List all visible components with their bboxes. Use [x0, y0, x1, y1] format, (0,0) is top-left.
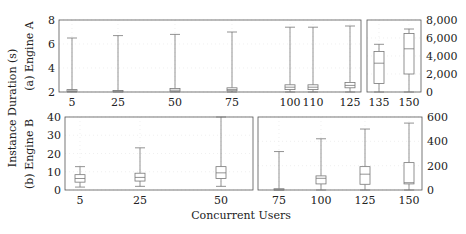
box-50 [170, 34, 180, 92]
y-tick-label: 4 [48, 62, 55, 75]
x-tick-label: 150 [399, 194, 420, 207]
x-tick-label: 5 [69, 96, 76, 109]
row-label-engine-a: (a) Engine A [23, 20, 36, 90]
y-tick-label: 30 [47, 129, 61, 142]
box-125 [360, 129, 370, 190]
x-tick-label: 50 [214, 194, 228, 207]
x-tick-label: 5 [77, 194, 84, 207]
y-tick-label: 8 [48, 14, 55, 27]
panel-engine_a_left: 24685255075100110125 [48, 14, 361, 109]
x-tick-label: 110 [303, 96, 324, 109]
box-5 [67, 38, 77, 92]
y-tick-label: 8,000 [426, 14, 458, 27]
x-tick-label: 150 [399, 96, 420, 109]
box-150 [404, 123, 414, 190]
x-tick-label: 75 [225, 96, 239, 109]
panel-engine_b_left: 01020304052550 [47, 111, 253, 207]
box-5 [75, 167, 85, 187]
x-tick-label: 75 [272, 194, 286, 207]
y-tick-label: 40 [47, 111, 61, 124]
x-tick-label: 125 [340, 96, 361, 109]
y-tick-label: 20 [47, 148, 61, 161]
row-label-engine-b: (b) Engine B [23, 119, 36, 189]
y-tick-label: 400 [427, 135, 448, 148]
x-tick-label: 50 [168, 96, 182, 109]
boxplot-figure: 2468525507510011012502,0004,0006,0008,00… [0, 0, 466, 234]
x-axis-title: Concurrent Users [191, 209, 291, 222]
panel-engine_b_right: 020040060075100125150 [258, 111, 448, 207]
y-axis-title: Instance Duration (s) [6, 49, 19, 167]
y-tick-label: 6 [48, 38, 55, 51]
box-125 [345, 26, 355, 92]
y-tick-label: 2 [48, 86, 55, 99]
box-135 [374, 44, 384, 92]
x-tick-label: 135 [369, 96, 390, 109]
panels: 2468525507510011012502,0004,0006,0008,00… [47, 14, 458, 207]
x-tick-label: 100 [311, 194, 332, 207]
box-110 [308, 27, 318, 92]
y-tick-label: 600 [427, 111, 448, 124]
box-25 [135, 148, 145, 187]
plot-frame [59, 20, 361, 92]
box-25 [113, 36, 123, 92]
x-tick-label: 125 [355, 194, 376, 207]
box-100 [316, 139, 326, 190]
box-75 [227, 32, 237, 92]
box-150 [404, 29, 414, 92]
box-50 [216, 117, 226, 186]
y-tick-label: 0 [427, 184, 434, 197]
box-100 [285, 27, 295, 92]
y-tick-label: 0 [54, 184, 61, 197]
y-tick-label: 2,000 [426, 68, 458, 81]
x-tick-label: 25 [133, 194, 147, 207]
y-tick-label: 4,000 [426, 50, 458, 63]
x-tick-label: 100 [280, 96, 301, 109]
panel-engine_a_right: 02,0004,0006,0008,000135150 [367, 14, 458, 109]
box-75 [274, 152, 284, 190]
y-tick-label: 10 [47, 166, 61, 179]
y-tick-label: 0 [426, 86, 433, 99]
y-tick-label: 200 [427, 160, 448, 173]
y-tick-label: 6,000 [426, 32, 458, 45]
plot-frame [258, 117, 422, 190]
x-tick-label: 25 [111, 96, 125, 109]
